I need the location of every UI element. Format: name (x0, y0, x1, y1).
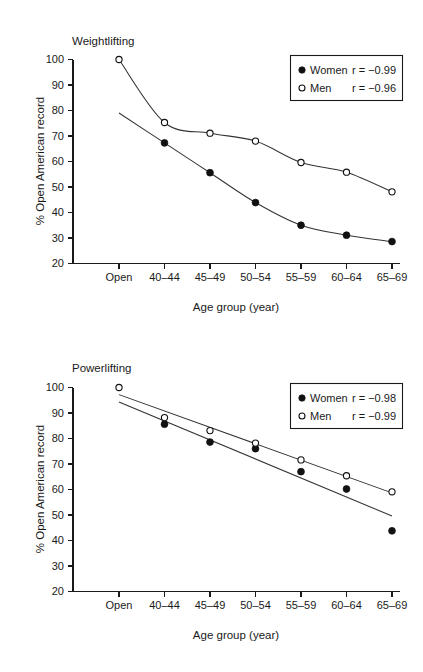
chart-panel-powerlifting: Powerlifting 2030405060708090100 Open40–… (0, 336, 423, 672)
x-tick-label: Open (106, 271, 133, 283)
y-axis-label: % Open American record (34, 425, 46, 553)
data-point-women-50–54 (252, 199, 259, 206)
y-tick-label: 80 (52, 104, 64, 116)
data-point-men-40–44 (161, 119, 167, 125)
data-point-women-60–64 (343, 486, 350, 493)
x-tick-label: 45–49 (195, 599, 226, 611)
x-tick-label: 65–69 (377, 271, 408, 283)
y-tick-label: 100 (46, 53, 64, 65)
fit-curve-women (119, 113, 392, 242)
y-tick-label: 40 (52, 534, 64, 546)
data-point-women-40–44 (161, 421, 168, 428)
y-tick-label: 100 (46, 381, 64, 393)
data-point-men-45–49 (207, 427, 213, 433)
data-point-women-55–59 (298, 222, 305, 229)
x-tick-label: 50–54 (240, 271, 271, 283)
y-tick-label: 60 (52, 155, 64, 167)
y-tick-label: 90 (52, 407, 64, 419)
data-point-men-50–54 (252, 138, 258, 144)
data-point-men-60–64 (343, 473, 349, 479)
y-tick-label: 70 (52, 458, 64, 470)
panel-title: Weightlifting (72, 35, 134, 47)
y-tick-label: 20 (52, 257, 64, 269)
figure-container: Weightlifting 2030405060708090100 Open40… (0, 0, 423, 672)
legend: Women r = −0.98 Men r = −0.99 (291, 384, 403, 429)
data-point-men-65–69 (389, 489, 395, 495)
weightlifting-plot: Weightlifting 2030405060708090100 Open40… (0, 0, 423, 336)
data-point-men-45–49 (207, 130, 213, 136)
legend-label-men: Men (310, 82, 331, 94)
x-tick-label: 60–64 (331, 271, 362, 283)
y-tick-label: 60 (52, 483, 64, 495)
x-tick-label: 50–54 (240, 599, 271, 611)
legend-label-women: Women (310, 64, 348, 76)
x-tick-label: 40–44 (149, 271, 180, 283)
y-axis-label-group: % Open American record (34, 425, 46, 553)
panel-title: Powerlifting (72, 362, 131, 374)
y-tick-label: 90 (52, 79, 64, 91)
x-tick-label: 60–64 (331, 599, 362, 611)
legend-marker-women (299, 395, 305, 401)
data-point-women-40–44 (161, 139, 168, 146)
x-tick-label: 55–59 (286, 599, 317, 611)
y-tick-label: 20 (52, 585, 64, 597)
legend-marker-men (299, 85, 305, 91)
y-axis-ticks: 2030405060708090100 (46, 381, 73, 597)
data-point-men-55–59 (298, 159, 304, 165)
x-tick-label: Open (106, 599, 133, 611)
data-point-women-45–49 (207, 169, 214, 176)
x-tick-label: 65–69 (377, 599, 408, 611)
y-tick-label: 30 (52, 560, 64, 572)
x-axis-label-group: Age group (year) (193, 301, 279, 313)
x-axis-ticks: Open40–4445–4950–5455–5960–6465–69 (106, 592, 408, 612)
legend-label-women: Women (310, 392, 348, 404)
data-point-men-50–54 (252, 440, 258, 446)
data-point-women-60–64 (343, 232, 350, 239)
legend-r-women: r = −0.99 (352, 64, 396, 76)
y-axis-ticks: 2030405060708090100 (46, 53, 73, 269)
legend-r-men: r = −0.96 (352, 82, 396, 94)
legend-marker-men (299, 413, 305, 419)
data-point-women-45–49 (207, 439, 214, 446)
y-tick-label: 40 (52, 206, 64, 218)
plot-title-group: Powerlifting (72, 362, 131, 374)
legend: Women r = −0.99 Men r = −0.96 (291, 56, 403, 101)
data-point-women-55–59 (298, 468, 305, 475)
x-axis-label: Age group (year) (193, 629, 279, 641)
data-point-women-65–69 (389, 527, 396, 534)
y-tick-label: 70 (52, 130, 64, 142)
data-point-men-65–69 (389, 189, 395, 195)
powerlifting-plot: Powerlifting 2030405060708090100 Open40–… (0, 336, 423, 672)
data-point-men-55–59 (298, 457, 304, 463)
y-tick-label: 80 (52, 432, 64, 444)
y-axis-label-group: % Open American record (34, 97, 46, 225)
chart-panel-weightlifting: Weightlifting 2030405060708090100 Open40… (0, 0, 423, 336)
x-axis-label-group: Age group (year) (193, 629, 279, 641)
x-tick-label: 45–49 (195, 271, 226, 283)
y-tick-label: 50 (52, 509, 64, 521)
plot-title-group: Weightlifting (72, 35, 134, 47)
data-point-men-40–44 (161, 414, 167, 420)
legend-r-men: r = −0.99 (352, 410, 396, 422)
legend-label-men: Men (310, 410, 331, 422)
data-point-men-Open (116, 384, 122, 390)
legend-marker-women (299, 67, 305, 73)
legend-r-women: r = −0.98 (352, 392, 396, 404)
y-tick-label: 30 (52, 232, 64, 244)
x-axis-label: Age group (year) (193, 301, 279, 313)
data-point-men-60–64 (343, 169, 349, 175)
y-tick-label: 50 (52, 181, 64, 193)
x-axis-ticks: Open40–4445–4950–5455–5960–6465–69 (106, 264, 408, 284)
x-tick-label: 40–44 (149, 599, 180, 611)
y-axis-label: % Open American record (34, 97, 46, 225)
x-tick-label: 55–59 (286, 271, 317, 283)
data-point-women-65–69 (389, 238, 396, 245)
data-point-men-Open (116, 56, 122, 62)
